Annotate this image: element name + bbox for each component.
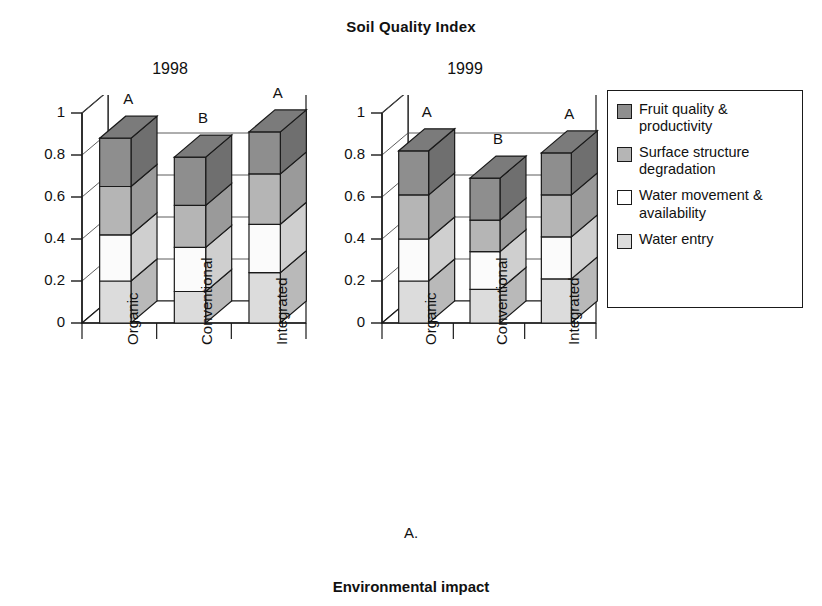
legend-swatch-icon <box>617 104 632 119</box>
panel-label-1998: 1998 <box>20 60 320 78</box>
legend-label: Fruit quality & productivity <box>639 101 794 135</box>
y-axis-tick-label: 0.4 <box>325 230 365 245</box>
significance-letter: A <box>113 90 143 107</box>
chart-legend: Fruit quality & productivity Surface str… <box>607 90 803 308</box>
legend-item: Water movement & availability <box>617 187 794 221</box>
chart-panel-1999: 1999 00.20.40.60.81AIntegratedBConventio… <box>320 95 610 395</box>
y-axis-tick-label: 0.8 <box>25 146 65 161</box>
y-axis-tick-label: 0 <box>325 314 365 329</box>
y-axis-tick-label: 0.2 <box>325 272 365 287</box>
significance-letter: A <box>412 103 442 120</box>
legend-swatch-icon <box>617 234 632 249</box>
y-axis-tick-label: 0.6 <box>325 188 365 203</box>
x-axis-category-label: Conventional <box>198 257 215 345</box>
x-axis-category-label: Integrated <box>273 277 290 345</box>
legend-label: Water entry <box>639 231 713 248</box>
y-axis-tick-label: 0.2 <box>25 272 65 287</box>
significance-letter: B <box>188 109 218 126</box>
panel-label-1999: 1999 <box>320 60 610 78</box>
legend-item: Water entry <box>617 231 794 249</box>
y-axis-tick-label: 0.6 <box>25 188 65 203</box>
legend-swatch-icon <box>617 190 632 205</box>
legend-swatch-icon <box>617 147 632 162</box>
plot-area-1998 <box>20 95 320 395</box>
legend-label: Surface structure degradation <box>639 144 794 178</box>
significance-letter: A <box>263 84 293 101</box>
chart-panel-1998: 1998 00.20.40.60.81AIntegratedBConventio… <box>20 95 320 395</box>
y-axis-tick-label: 0 <box>25 314 65 329</box>
significance-letter: B <box>483 130 513 147</box>
legend-item: Fruit quality & productivity <box>617 101 794 135</box>
legend-item: Surface structure degradation <box>617 144 794 178</box>
y-axis-tick-label: 1 <box>25 104 65 119</box>
y-axis-tick-label: 0.8 <box>325 146 365 161</box>
chart-figure: Soil Quality Index 1998 00.20.40.60.81AI… <box>0 0 822 606</box>
x-axis-category-label: Integrated <box>565 277 582 345</box>
x-axis-category-label: Conventional <box>493 257 510 345</box>
panel-letter: A. <box>0 524 822 541</box>
y-axis-tick-label: 0.4 <box>25 230 65 245</box>
x-axis-category-label: Organic <box>124 292 141 345</box>
significance-letter: A <box>554 105 584 122</box>
figure-caption: Environmental impact <box>0 578 822 595</box>
figure-title: Soil Quality Index <box>0 18 822 35</box>
x-axis-category-label: Organic <box>422 292 439 345</box>
legend-label: Water movement & availability <box>639 187 794 221</box>
y-axis-tick-label: 1 <box>325 104 365 119</box>
